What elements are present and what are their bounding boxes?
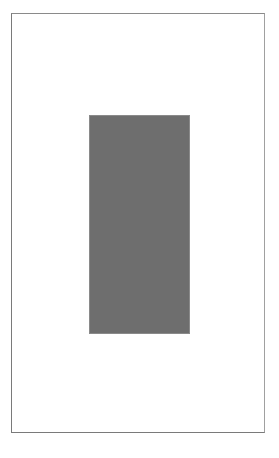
document-page — [11, 13, 265, 433]
image-placeholder — [89, 115, 190, 334]
